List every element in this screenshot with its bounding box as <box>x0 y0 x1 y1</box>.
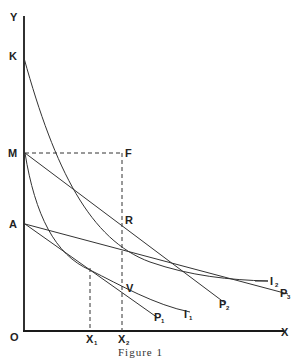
point-M-label: M <box>8 147 17 159</box>
point-A-label: A <box>9 218 17 230</box>
point-F-label: F <box>125 147 132 159</box>
x1-label: X <box>86 333 94 345</box>
I1-subscript: 1 <box>189 315 193 321</box>
x2-label: X <box>118 333 126 345</box>
I2-subscript: 2 <box>275 282 279 288</box>
x-axis-label: X <box>281 326 289 338</box>
P1-subscript: 1 <box>161 318 165 324</box>
price-line-P3 <box>25 224 288 294</box>
x1-subscript: 1 <box>94 340 98 346</box>
P3-subscript: 3 <box>287 294 291 300</box>
P2-subscript: 2 <box>226 305 230 311</box>
point-R-label: R <box>125 214 133 226</box>
figure-diagram: Y X O K M A F R V X 1 X 2 I 2 P 3 P 2 I … <box>0 0 298 360</box>
indifference-curve-I1 <box>25 153 190 312</box>
I1-label: I <box>184 308 187 320</box>
I2-label: I <box>270 275 273 287</box>
figure-caption: Figure 1 <box>118 346 163 358</box>
y-axis-label: Y <box>10 11 18 23</box>
price-line-P2 <box>25 153 225 303</box>
point-V-label: V <box>126 282 134 294</box>
origin-label: O <box>10 331 19 343</box>
point-K-label: K <box>9 50 17 62</box>
